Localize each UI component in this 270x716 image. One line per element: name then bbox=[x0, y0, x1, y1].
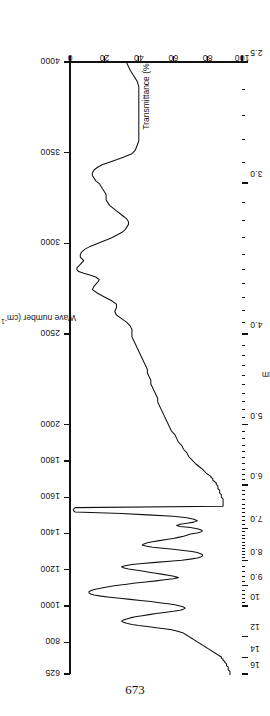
micron-tick-label: 9.0 bbox=[250, 572, 262, 582]
micron-minor-tick bbox=[242, 504, 246, 505]
micron-minor-tick bbox=[242, 162, 246, 163]
micron-minor-tick bbox=[242, 535, 246, 536]
micron-minor-tick bbox=[242, 499, 246, 500]
micron-minor-tick bbox=[242, 297, 246, 298]
micron-tick bbox=[242, 424, 248, 425]
micron-minor-tick bbox=[242, 531, 246, 532]
micron-minor-tick bbox=[242, 479, 246, 480]
micron-minor-tick bbox=[242, 115, 246, 116]
wavenumber-tick-label: 1400 bbox=[40, 527, 60, 537]
micron-minor-tick bbox=[242, 457, 246, 458]
micron-minor-tick bbox=[242, 417, 246, 418]
micron-tick-label: 8.0 bbox=[250, 547, 262, 557]
wavenumber-tick-label: 2500 bbox=[40, 328, 60, 338]
micron-tick-label: 5.0 bbox=[250, 411, 262, 421]
micron-minor-tick bbox=[242, 310, 246, 311]
wavenumber-tick-label: 1200 bbox=[40, 564, 60, 574]
micron-minor-tick bbox=[242, 542, 246, 543]
micron-tick bbox=[242, 484, 248, 485]
micron-minor-tick bbox=[242, 602, 246, 603]
micron-minor-tick bbox=[242, 512, 246, 513]
micron-minor-tick bbox=[242, 557, 246, 558]
micron-tick bbox=[242, 333, 248, 334]
wavenumber-tick-label: 800 bbox=[45, 636, 60, 646]
micron-tick bbox=[242, 585, 248, 586]
micron-tick-label: 4.0 bbox=[250, 320, 262, 330]
wavenumber-axis-line bbox=[69, 62, 70, 674]
micron-axis-title: µm bbox=[262, 370, 270, 380]
micron-tick-label: 10 bbox=[250, 592, 260, 602]
figure-page: 4000350030002500200018001600140012001000… bbox=[0, 0, 270, 716]
ir-spectrum-figure: 4000350030002500200018001600140012001000… bbox=[0, 0, 270, 716]
micron-minor-tick bbox=[242, 409, 246, 410]
plot-area bbox=[70, 62, 242, 674]
micron-minor-tick bbox=[242, 393, 246, 394]
micron-minor-tick bbox=[242, 581, 246, 582]
micron-minor-tick bbox=[242, 365, 246, 366]
wavenumber-tick-label: 3000 bbox=[40, 237, 60, 247]
micron-minor-tick bbox=[242, 548, 246, 549]
micron-tick bbox=[242, 182, 248, 183]
micron-minor-tick bbox=[242, 355, 246, 356]
micron-tick-label: 16 bbox=[250, 660, 260, 670]
micron-tick-label: 7.0 bbox=[250, 514, 262, 524]
micron-minor-tick bbox=[242, 401, 246, 402]
micron-tick-label: 3.0 bbox=[250, 169, 262, 179]
transmittance-axis-line bbox=[70, 61, 242, 62]
micron-tick bbox=[242, 605, 248, 606]
micron-minor-tick bbox=[242, 594, 246, 595]
micron-minor-tick bbox=[242, 598, 246, 599]
micron-minor-tick bbox=[242, 520, 246, 521]
micron-minor-tick bbox=[242, 445, 246, 446]
micron-minor-tick bbox=[242, 494, 246, 495]
wavenumber-tick-label: 1800 bbox=[40, 455, 60, 465]
micron-minor-tick bbox=[242, 571, 246, 572]
micron-minor-tick bbox=[242, 551, 246, 552]
wavenumber-tick-label: 3500 bbox=[40, 147, 60, 157]
micron-minor-tick bbox=[242, 566, 246, 567]
micron-minor-tick bbox=[242, 283, 246, 284]
micron-tick-label: 14 bbox=[250, 644, 260, 654]
micron-minor-tick bbox=[242, 508, 246, 509]
micron-minor-tick bbox=[242, 469, 246, 470]
micron-minor-tick bbox=[242, 139, 246, 140]
micron-tick bbox=[242, 673, 248, 674]
wavenumber-axis-title: Wave number (cm-1 ) bbox=[0, 313, 76, 325]
micron-tick bbox=[242, 528, 248, 529]
micron-minor-tick bbox=[242, 438, 246, 439]
micron-minor-tick bbox=[242, 345, 246, 346]
micron-minor-tick bbox=[242, 220, 246, 221]
micron-minor-tick bbox=[242, 490, 246, 491]
micron-minor-tick bbox=[242, 463, 246, 464]
micron-minor-tick bbox=[242, 538, 246, 539]
micron-minor-tick bbox=[242, 89, 246, 90]
page-folio: 673 bbox=[125, 682, 145, 698]
micron-minor-tick bbox=[242, 322, 246, 323]
micron-minor-tick bbox=[242, 474, 246, 475]
micron-minor-tick bbox=[242, 254, 246, 255]
micron-minor-tick bbox=[242, 545, 246, 546]
micron-tick bbox=[242, 636, 248, 637]
micron-minor-tick bbox=[242, 524, 246, 525]
micron-minor-tick bbox=[242, 451, 246, 452]
micron-minor-tick bbox=[242, 554, 246, 555]
micron-minor-tick bbox=[242, 590, 246, 591]
spectrum-curve bbox=[70, 63, 242, 675]
micron-tick bbox=[242, 657, 248, 658]
transmittance-axis-title: Transmittance (%) bbox=[141, 61, 151, 130]
micron-minor-tick bbox=[242, 516, 246, 517]
micron-tick-label: 12 bbox=[250, 622, 260, 632]
micron-minor-tick bbox=[242, 375, 246, 376]
micron-tick bbox=[242, 560, 248, 561]
micron-tick-label: 2.5 bbox=[250, 48, 262, 58]
micron-tick-label: 6.0 bbox=[250, 471, 262, 481]
wavenumber-tick-label: 4000 bbox=[40, 56, 60, 66]
wavenumber-tick-label: 1000 bbox=[40, 600, 60, 610]
wavenumber-tick-label: 2000 bbox=[40, 419, 60, 429]
micron-minor-tick bbox=[242, 384, 246, 385]
micron-minor-tick bbox=[242, 237, 246, 238]
wavenumber-tick-label: 1600 bbox=[40, 491, 60, 501]
micron-minor-tick bbox=[242, 576, 246, 577]
micron-minor-tick bbox=[242, 431, 246, 432]
wavenumber-tick-label: 625 bbox=[45, 668, 60, 678]
